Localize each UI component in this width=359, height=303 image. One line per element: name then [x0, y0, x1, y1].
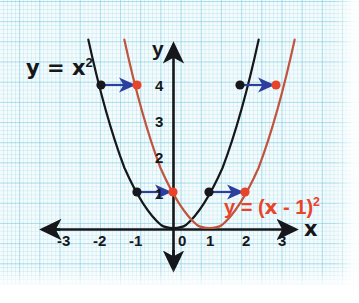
- y-tick-3: 3: [155, 114, 163, 129]
- points-black-curve: [96, 80, 244, 196]
- equation-black-text: y = x: [26, 56, 85, 80]
- equation-label-y-equals-x-squared: y = x2: [26, 56, 93, 79]
- equation-black-exponent: 2: [85, 55, 92, 70]
- x-tick-3: 3: [278, 233, 286, 248]
- y-tick-2: 2: [155, 150, 163, 165]
- point-red-3-4: [271, 80, 280, 89]
- x-tick-minus-3: -3: [57, 233, 70, 248]
- point-black-minus1-1: [132, 187, 141, 196]
- point-black-2-4: [235, 80, 244, 89]
- x-tick-1: 1: [206, 233, 214, 248]
- x-tick-minus-2: -2: [93, 233, 106, 248]
- page-bottom-edge: [0, 268, 359, 303]
- equation-label-y-equals-x-minus-1-squared: y = (x - 1)2: [224, 196, 320, 217]
- equation-red-exponent: 2: [313, 195, 320, 209]
- equation-red-prefix: y = (: [224, 196, 265, 218]
- x-tick-2: 2: [242, 233, 250, 248]
- equation-red-variable: x: [265, 195, 278, 219]
- point-red-minus1-4: [132, 80, 141, 89]
- y-tick-4: 4: [155, 78, 163, 93]
- y-tick-1: 1: [155, 186, 163, 201]
- graph-figure: x y -3 -2 -1 0 1 2 3 1 2 3 4 y = x2 y = …: [0, 0, 359, 303]
- page-right-edge: [333, 0, 359, 303]
- x-tick-minus-1: -1: [129, 233, 142, 248]
- equation-red-suffix: - 1): [277, 196, 313, 218]
- x-tick-0: 0: [178, 233, 186, 248]
- point-black-1-1: [204, 187, 213, 196]
- y-axis-label: y: [152, 38, 164, 59]
- x-axis-label: x: [304, 219, 318, 240]
- point-red-0-1: [168, 187, 177, 196]
- point-black-minus2-4: [96, 80, 105, 89]
- coordinate-plot: [0, 0, 359, 303]
- points-red-curve: [132, 80, 280, 196]
